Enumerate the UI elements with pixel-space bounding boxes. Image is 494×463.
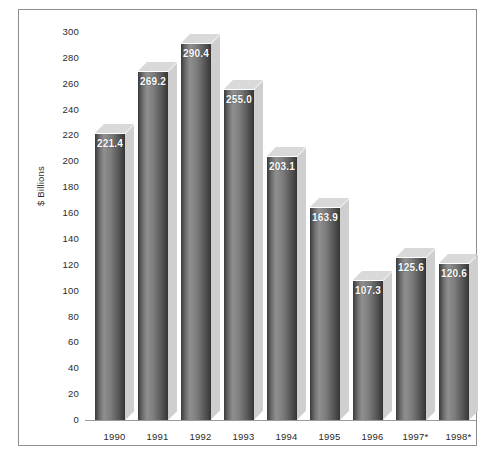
- bar[interactable]: 269.2: [138, 63, 177, 420]
- y-tick-label: 0: [49, 415, 79, 425]
- bar-value-label: 203.1: [269, 161, 295, 172]
- x-tick-label: 1998*: [437, 431, 481, 442]
- bar-side-face: [211, 35, 220, 420]
- bar-value-label: 163.9: [312, 212, 338, 223]
- bar-side-face: [168, 63, 177, 420]
- bar[interactable]: 290.4: [181, 35, 220, 420]
- bar-front-face: [267, 157, 297, 420]
- bar-top-face: [439, 254, 478, 264]
- bar-front-face: [353, 281, 383, 420]
- bar-front-face: [396, 258, 426, 420]
- bar-side-face: [125, 125, 134, 420]
- bar-top-face: [224, 80, 263, 90]
- x-axis-baseline: [85, 420, 477, 421]
- y-tick-label: 180: [49, 182, 79, 192]
- x-tick-label: 1994: [265, 431, 309, 442]
- bar-value-label: 221.4: [97, 138, 123, 149]
- bar-side-face: [297, 148, 306, 420]
- x-tick-label: 1997*: [394, 431, 438, 442]
- x-tick-label: 1993: [222, 431, 266, 442]
- y-tick-label: 200: [49, 156, 79, 166]
- plot-area: 221.4269.2290.4255.0203.1163.9107.3125.6…: [85, 32, 483, 421]
- bar-top-face: [396, 248, 435, 258]
- bar[interactable]: 125.6: [396, 249, 435, 420]
- y-tick-label: 60: [49, 337, 79, 347]
- bar-side-face: [469, 255, 478, 420]
- bar[interactable]: 107.3: [353, 272, 392, 420]
- bar[interactable]: 203.1: [267, 148, 306, 420]
- x-tick-label: 1990: [93, 431, 137, 442]
- bar-front-face: [224, 90, 254, 420]
- bar-side-face: [340, 199, 349, 420]
- bar-top-face: [95, 124, 134, 134]
- y-tick-label: 280: [49, 53, 79, 63]
- bar-side-face: [254, 81, 263, 420]
- bar-top-face: [353, 271, 392, 281]
- bar-front-face: [138, 72, 168, 420]
- bar-value-label: 290.4: [183, 48, 209, 59]
- x-tick-label: 1992: [179, 431, 223, 442]
- bar-value-label: 120.6: [441, 268, 467, 279]
- y-tick-label: 120: [49, 260, 79, 270]
- y-tick-label: 80: [49, 312, 79, 322]
- bar[interactable]: 221.4: [95, 125, 134, 420]
- bar-front-face: [310, 208, 340, 420]
- bar-top-face: [267, 147, 306, 157]
- bar-top-face: [310, 198, 349, 208]
- bar-value-label: 107.3: [355, 285, 381, 296]
- y-tick-label: 220: [49, 130, 79, 140]
- y-tick-label: 40: [49, 363, 79, 373]
- bar-chart: $ Billions 30028026024022020018016014012…: [0, 0, 494, 463]
- x-tick-label: 1996: [351, 431, 395, 442]
- y-tick-label: 100: [49, 286, 79, 296]
- bar-top-face: [138, 62, 177, 72]
- bar-side-face: [426, 249, 435, 420]
- y-tick-label: 140: [49, 234, 79, 244]
- bar-side-face: [383, 272, 392, 420]
- chart-frame: $ Billions 30028026024022020018016014012…: [18, 9, 477, 446]
- y-axis-tick-labels: 3002802602402202001801601401201008060402…: [45, 32, 79, 421]
- bar-front-face: [181, 44, 211, 420]
- bar-value-label: 269.2: [140, 76, 166, 87]
- bar-top-face: [181, 34, 220, 44]
- y-tick-label: 240: [49, 105, 79, 115]
- y-tick-label: 20: [49, 389, 79, 399]
- x-tick-label: 1995: [308, 431, 352, 442]
- bar-value-label: 255.0: [226, 94, 252, 105]
- bar-front-face: [95, 134, 125, 420]
- bar[interactable]: 163.9: [310, 199, 349, 420]
- bar-value-label: 125.6: [398, 262, 424, 273]
- x-tick-label: 1991: [136, 431, 180, 442]
- y-tick-label: 260: [49, 79, 79, 89]
- y-tick-label: 160: [49, 208, 79, 218]
- bar[interactable]: 120.6: [439, 255, 478, 420]
- bar-front-face: [439, 264, 469, 420]
- y-tick-label: 300: [49, 27, 79, 37]
- bar[interactable]: 255.0: [224, 81, 263, 420]
